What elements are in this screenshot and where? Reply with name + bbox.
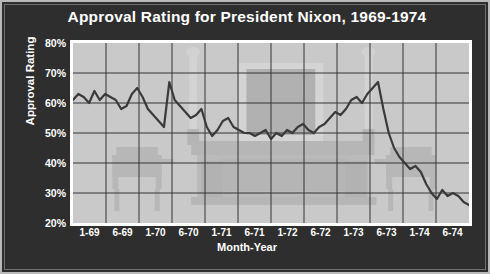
approval-rating-line — [73, 43, 469, 223]
y-axis-tick-label: 70% — [32, 68, 66, 78]
y-axis-tick-label: 50% — [32, 128, 66, 138]
y-axis-tick-label: 60% — [32, 98, 66, 108]
x-axis-label: Month-Year — [2, 241, 490, 253]
plot-canvas — [73, 43, 469, 223]
y-axis-tick-label: 80% — [32, 38, 66, 48]
x-axis-tick-label: 6-74 — [433, 227, 473, 239]
y-axis-tick-label: 30% — [32, 188, 66, 198]
plot-area — [70, 40, 472, 226]
chart-title: Approval Rating for President Nixon, 196… — [2, 8, 490, 26]
y-axis-tick-label: 40% — [32, 158, 66, 168]
chart-figure: Approval Rating for President Nixon, 196… — [0, 0, 490, 274]
